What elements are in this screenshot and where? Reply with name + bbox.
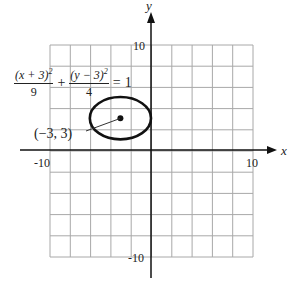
equals-sign: = xyxy=(113,75,121,91)
term1-denominator: 9 xyxy=(31,84,37,98)
y-tick-label-10: 10 xyxy=(133,39,145,53)
term1-exponent: 2 xyxy=(48,67,52,76)
y-tick-label-neg10: -10 xyxy=(128,251,144,265)
plus-sign: + xyxy=(57,75,65,91)
coordinate-plane: x y -10 10 10 -10 (−3, 3) xyxy=(0,0,290,300)
equation-rhs: 1 xyxy=(125,75,132,91)
term2-denominator: 4 xyxy=(86,84,92,98)
y-axis-label: y xyxy=(144,0,152,13)
equation-term-y: (y − 3)2 4 xyxy=(69,68,108,98)
x-axis-arrow-icon xyxy=(267,146,277,154)
term2-numerator: (y − 3) xyxy=(70,68,103,82)
graph-figure: x y -10 10 10 -10 (−3, 3) (x + 3)2 9 + (… xyxy=(0,0,290,300)
center-point xyxy=(117,115,123,121)
ellipse-equation: (x + 3)2 9 + (y − 3)2 4 = 1 xyxy=(14,68,132,98)
term2-exponent: 2 xyxy=(104,67,108,76)
y-axis-arrow-icon xyxy=(147,12,155,23)
center-point-label: (−3, 3) xyxy=(34,126,73,142)
term1-numerator: (x + 3) xyxy=(15,68,48,82)
x-tick-label-neg10: -10 xyxy=(34,156,50,170)
x-tick-label-10: 10 xyxy=(246,156,258,170)
x-axis-label: x xyxy=(280,143,287,158)
equation-term-x: (x + 3)2 9 xyxy=(14,68,53,98)
